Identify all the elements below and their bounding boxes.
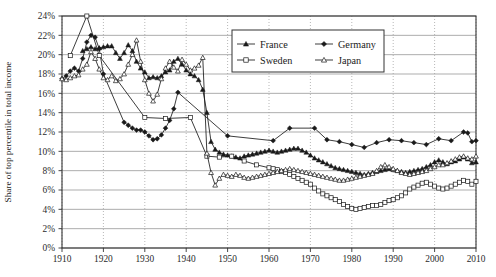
legend-label: Japan [338, 55, 361, 66]
data-point-open-square [474, 179, 478, 183]
y-tick-label: 22% [38, 31, 55, 41]
data-point-open-square [325, 194, 329, 198]
data-point-open-square [255, 163, 259, 167]
x-tick-label: 1970 [301, 254, 320, 264]
data-point-open-square [362, 205, 366, 209]
data-point-open-square [242, 159, 246, 163]
data-point-open-square [391, 198, 395, 202]
data-point-open-square [404, 191, 408, 195]
data-point-open-square [462, 178, 466, 182]
y-tick-label: 6% [43, 185, 56, 195]
data-point-open-square [350, 206, 354, 210]
data-point-open-square [416, 183, 420, 187]
x-tick-label: 1960 [260, 254, 279, 264]
data-point-open-square [292, 174, 296, 178]
y-tick-label: 4% [43, 205, 56, 215]
y-tick-label: 24% [38, 11, 55, 21]
data-point-open-square [428, 182, 432, 186]
data-point-open-square [441, 187, 445, 191]
x-tick-label: 1940 [177, 254, 196, 264]
data-point-open-square [395, 196, 399, 200]
y-tick-label: 16% [38, 89, 55, 99]
data-point-open-square [383, 201, 387, 205]
y-axis-title: Share of top percentile in total income [3, 62, 13, 203]
data-point-open-square [375, 203, 379, 207]
data-point-open-square [188, 115, 192, 119]
y-tick-label: 14% [38, 108, 55, 118]
data-point-open-square [329, 196, 333, 200]
data-point-open-square [341, 202, 345, 206]
y-tick-label: 0% [43, 243, 56, 253]
data-point-open-square [466, 179, 470, 183]
income-share-line-chart: 0%2%4%6%8%10%12%14%16%18%20%22%24% 19101… [0, 0, 496, 277]
data-point-open-square [433, 184, 437, 188]
data-point-open-square [453, 182, 457, 186]
x-tick-label: 1990 [384, 254, 403, 264]
data-point-open-square [300, 178, 304, 182]
data-point-open-square [308, 182, 312, 186]
data-point-open-square [449, 184, 453, 188]
data-point-open-square [399, 194, 403, 198]
data-point-open-square [288, 172, 292, 176]
data-point-open-square [68, 54, 72, 58]
data-point-open-square [412, 185, 416, 189]
data-point-open-square [163, 116, 167, 120]
data-point-open-square [408, 187, 412, 191]
chart-legend: FranceGermanySwedenJapan [232, 30, 384, 72]
y-axis-label-text: Share of top percentile in total income [3, 62, 13, 203]
legend-label: France [260, 39, 288, 50]
x-tick-label: 1910 [53, 254, 72, 264]
data-point-open-square [230, 154, 234, 158]
data-point-open-square [370, 203, 374, 207]
x-tick-label: 2000 [425, 254, 444, 264]
x-tick-label: 1930 [135, 254, 154, 264]
data-point-open-square [143, 115, 147, 119]
data-point-open-square [379, 202, 383, 206]
data-point-open-square [457, 180, 461, 184]
y-tick-label: 12% [38, 127, 55, 137]
chart-container: 0%2%4%6%8%10%12%14%16%18%20%22%24% 19101… [0, 0, 496, 277]
x-tick-label: 1980 [342, 254, 361, 264]
data-point-open-square [296, 176, 300, 180]
data-point-open-square [317, 189, 321, 193]
data-point-open-square [304, 180, 308, 184]
data-point-open-square [337, 200, 341, 204]
legend-label: Sweden [260, 55, 292, 66]
data-point-open-square [321, 192, 325, 196]
x-tick-label: 1920 [94, 254, 113, 264]
legend-label: Germany [338, 39, 377, 50]
data-point-open-square [358, 206, 362, 210]
data-point-open-square [387, 199, 391, 203]
data-point-open-square [267, 166, 271, 170]
data-point-open-square [470, 182, 474, 186]
y-tick-label: 20% [38, 50, 55, 60]
data-point-open-square [85, 14, 89, 18]
data-point-open-square [354, 207, 358, 211]
legend-box [232, 30, 384, 72]
y-tick-label: 2% [43, 224, 56, 234]
data-point-open-square [244, 58, 248, 62]
y-tick-label: 18% [38, 69, 55, 79]
x-tick-label: 2010 [467, 254, 486, 264]
data-point-open-square [424, 180, 428, 184]
data-point-open-square [313, 186, 317, 190]
y-tick-label: 8% [43, 166, 56, 176]
x-tick-label: 1950 [218, 254, 237, 264]
data-point-open-square [420, 181, 424, 185]
data-point-open-square [366, 204, 370, 208]
data-point-open-square [217, 155, 221, 159]
data-point-open-square [346, 204, 350, 208]
data-point-open-square [97, 54, 101, 58]
data-point-open-square [333, 198, 337, 202]
data-point-open-square [437, 186, 441, 190]
data-point-open-square [445, 186, 449, 190]
y-tick-label: 10% [38, 147, 55, 157]
